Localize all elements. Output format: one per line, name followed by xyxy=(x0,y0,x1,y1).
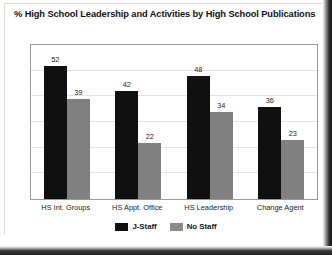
chart-figure: % High School Leadership and Activities … xyxy=(0,0,332,255)
bar xyxy=(44,66,67,199)
page-frame-top-edge xyxy=(4,3,322,4)
legend-label: J-Staff xyxy=(132,222,156,231)
bar-value-label: 36 xyxy=(253,96,287,105)
bar xyxy=(138,143,161,199)
chart-legend: J-StaffNo Staff xyxy=(0,222,332,231)
legend-label: No Staff xyxy=(187,222,217,231)
x-axis-category-labels: HS Int. GroupsHS Appt. OfficeHS Leadersh… xyxy=(30,203,318,217)
bar xyxy=(281,140,304,199)
bar-value-label: 34 xyxy=(204,101,238,110)
bar-value-label: 52 xyxy=(38,55,72,64)
bar-value-label: 22 xyxy=(133,132,167,141)
scan-edge-bottom xyxy=(0,246,332,255)
x-axis-tick-label: HS Appt. Office xyxy=(102,203,174,212)
bar xyxy=(210,112,233,199)
bar-value-label: 42 xyxy=(110,80,144,89)
bar xyxy=(115,91,138,199)
x-axis-tick-label: HS Int. Groups xyxy=(30,203,102,212)
gridline xyxy=(31,70,317,71)
legend-swatch-icon xyxy=(170,223,183,231)
bar-value-label: 48 xyxy=(181,65,215,74)
x-axis-tick-label: Change Agent xyxy=(245,203,317,212)
legend-item: J-Staff xyxy=(115,222,156,231)
bar xyxy=(67,99,90,199)
legend-item: No Staff xyxy=(170,222,217,231)
bar-value-label: 23 xyxy=(276,129,310,138)
scan-edge-right xyxy=(323,0,332,247)
plot-area: 5239422248343623 xyxy=(30,44,318,200)
legend-swatch-icon xyxy=(115,223,128,231)
bar xyxy=(187,76,210,199)
bar xyxy=(258,107,281,199)
x-axis-tick-label: HS Leadership xyxy=(173,203,245,212)
bar-value-label: 39 xyxy=(61,88,95,97)
chart-title: % High School Leadership and Activities … xyxy=(14,9,315,19)
